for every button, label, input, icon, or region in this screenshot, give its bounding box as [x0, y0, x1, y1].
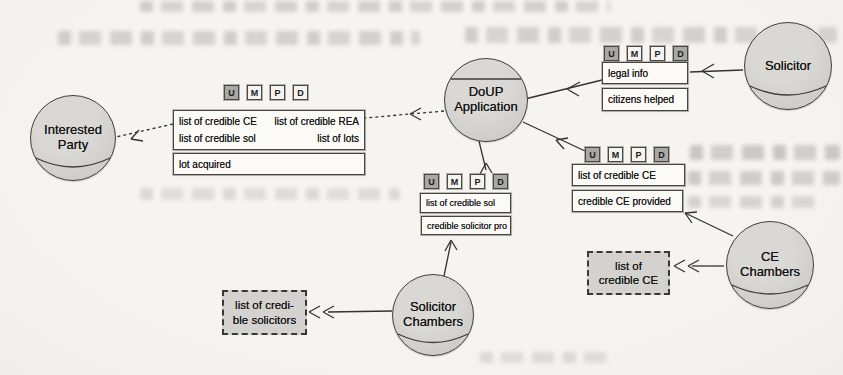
- permission-tags-credible-sol: U M P D: [424, 174, 508, 189]
- resource-label: list of lots: [317, 130, 359, 147]
- resource-box-ip-lists: list of credible CE list of credible REA…: [173, 110, 365, 150]
- resource-label: list of credible REA: [275, 113, 359, 130]
- resource-label: lot acquired: [179, 159, 359, 170]
- actor-label: Solicitor Chambers: [399, 300, 467, 329]
- resource-box-citizens-helped: citizens helped: [602, 88, 688, 111]
- actor-solicitor-chambers: Solicitor Chambers: [392, 274, 474, 356]
- dashed-box-label: credible CE: [599, 273, 658, 287]
- dashed-box-label: list of: [615, 259, 642, 273]
- resource-label: credible solicitor pro: [427, 221, 505, 231]
- tag-m: M: [608, 147, 623, 162]
- resource-box-lot-acquired: lot acquired: [173, 153, 365, 175]
- resource-box-list-credible-sol: list of credible sol: [420, 193, 511, 213]
- actor-label: Solicitor: [748, 59, 828, 74]
- actor-label: CE Chambers: [739, 250, 801, 279]
- actor-label: Interested Party: [38, 123, 108, 152]
- tag-p: P: [650, 46, 665, 61]
- permission-tags-interested-party: U M P D: [224, 85, 308, 100]
- dashed-box-label: list of credi-: [235, 298, 294, 312]
- tag-m: M: [247, 85, 262, 100]
- resource-label: list of credible CE: [578, 170, 679, 181]
- double-arrow-solicitor-chambers-to-dashed-box: [309, 306, 392, 318]
- tag-d: D: [493, 174, 508, 189]
- dashed-box-label: ble solicitors: [233, 313, 296, 327]
- resource-box-credible-solicitor-pro: credible solicitor pro: [421, 216, 511, 235]
- tag-u: U: [585, 147, 600, 162]
- arrow-ce-chambers-to-ce-stack: [685, 212, 733, 236]
- resource-box-credible-ce-provided: credible CE provided: [572, 190, 683, 212]
- actor-interested-party: Interested Party: [30, 95, 116, 181]
- tag-u: U: [424, 174, 439, 189]
- tag-u: U: [224, 85, 239, 100]
- tag-d: D: [654, 147, 669, 162]
- tag-p: P: [631, 147, 646, 162]
- actor-ce-chambers: CE Chambers: [726, 221, 814, 309]
- resource-label: list of credible sol: [426, 198, 505, 208]
- resource-box-legal-info: legal info: [602, 62, 688, 84]
- tag-d: D: [673, 46, 688, 61]
- resource-label: list of credible sol: [179, 130, 256, 147]
- arrow-legal-info-to-doup: [525, 80, 602, 99]
- dashed-box-list-of-credible-solicitors: list of credi- ble solicitors: [222, 290, 307, 335]
- permission-tags-legal-info: U M P D: [604, 46, 688, 61]
- tag-p: P: [270, 85, 285, 100]
- tag-m: M: [447, 174, 462, 189]
- resource-label: list of credible CE: [179, 113, 257, 130]
- double-arrow-ce-chambers-to-dashed-box: [674, 260, 724, 272]
- resource-label: legal info: [608, 68, 682, 79]
- arrow-credible-sol-stack-to-doup: [479, 141, 492, 174]
- arrow-solicitor-chambers-to-sol-stack: [444, 240, 457, 276]
- resource-label: citizens helped: [608, 94, 682, 105]
- tag-d: D: [293, 85, 308, 100]
- dashed-box-list-of-credible-ce: list of credible CE: [587, 251, 670, 295]
- arrow-solicitor-to-legal-info: [690, 64, 743, 78]
- tag-m: M: [627, 46, 642, 61]
- resource-row: list of credible sol list of lots: [179, 130, 359, 147]
- resource-row: list of credible CE list of credible REA: [179, 113, 359, 130]
- resource-box-list-credible-ce: list of credible CE: [572, 164, 685, 186]
- resource-label: credible CE provided: [578, 196, 677, 207]
- permission-tags-credible-ce: U M P D: [585, 147, 669, 162]
- arrow-credible-ce-stack-to-doup: [523, 122, 585, 151]
- tag-u: U: [604, 46, 619, 61]
- scanned-figure-page: Interested Party DoUP Application Solici…: [0, 0, 843, 375]
- actor-solicitor: Solicitor: [744, 22, 832, 110]
- actor-doup-application: DoUP Application: [444, 58, 528, 142]
- tag-p: P: [470, 174, 485, 189]
- actor-label: DoUP Application: [447, 85, 525, 114]
